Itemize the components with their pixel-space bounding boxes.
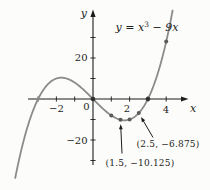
function-curve [15,11,172,178]
y-axis-label: y [80,7,88,20]
x-tick-label-0: 0 [83,101,89,112]
annotation-arrow-shaft [143,120,153,138]
cubic-function-figure: y x y = x3 − 9x −2 0 2 4 20 −20 (2.5, −6… [0,0,210,190]
sample-point-dot [137,111,141,115]
x-tick-label-4: 4 [163,104,169,115]
root-point-dot [91,97,96,102]
y-axis-arrowhead-icon [90,10,95,18]
sample-point-dot [164,40,168,44]
annotation-arrow-shaft [121,127,122,153]
formula-tail: − 9x [149,21,179,34]
x-tick-label-neg2: −2 [49,103,64,114]
annotation-arrowhead-icon [119,124,123,129]
plot-canvas: y x y = x3 − 9x −2 0 2 4 20 −20 (2.5, −6… [0,0,210,190]
sample-point-dot [109,113,113,117]
y-tick-label-20: 20 [75,52,88,63]
sample-point-dot [118,118,122,122]
root-point-dot [146,97,151,102]
y-tick-label-neg20: −20 [66,135,87,146]
sample-point-dot [128,118,132,122]
x-axis-arrowhead-icon [181,96,189,101]
x-axis-label: x [190,102,197,115]
formula-lead: y = x [115,21,145,34]
x-tick-label-2: 2 [124,103,130,114]
formula-label: y = x3 − 9x [115,20,180,35]
annotation-1-5: (1.5, −10.125) [106,158,175,168]
annotation-2-5: (2.5, −6.875) [137,139,200,149]
annotation-arrowhead-icon [141,117,145,122]
